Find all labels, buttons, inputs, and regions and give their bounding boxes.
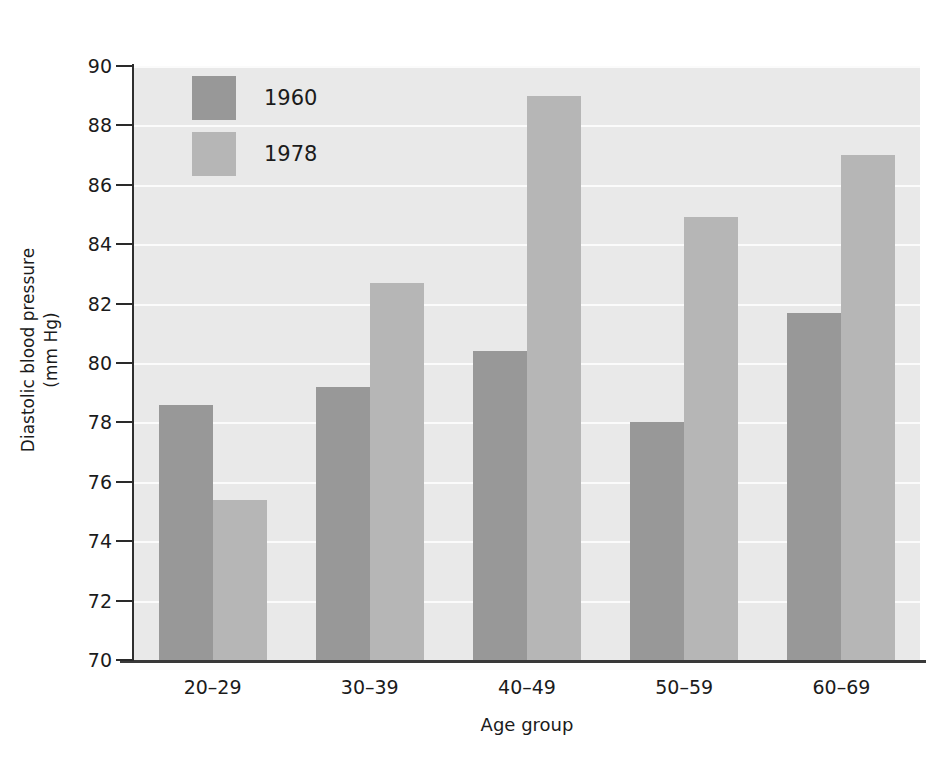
x-tick-label: 50–59 <box>614 676 754 698</box>
bar-1960-30–39 <box>316 387 370 660</box>
bar-1960-40–49 <box>473 351 527 660</box>
y-axis-spine <box>132 64 134 662</box>
x-tick-label: 20–29 <box>143 676 283 698</box>
y-tick-label: 72 <box>72 591 112 610</box>
x-tick-label: 30–39 <box>300 676 440 698</box>
y-tick-label: 90 <box>72 57 112 76</box>
bar-1978-50–59 <box>684 217 738 660</box>
y-axis-title-line1: Diastolic blood pressure <box>18 248 38 452</box>
y-tick-label: 88 <box>72 116 112 135</box>
bar-chart-figure: Diastolic blood pressure (mm Hg) 7072747… <box>0 0 949 758</box>
y-tick-label: 78 <box>72 413 112 432</box>
y-tick-label: 80 <box>72 354 112 373</box>
legend-swatch <box>192 76 236 120</box>
bar-1960-20–29 <box>159 405 213 660</box>
y-tick-label: 82 <box>72 294 112 313</box>
bar-1960-60–69 <box>787 313 841 660</box>
x-axis-spine <box>120 660 926 663</box>
bar-1978-60–69 <box>841 155 895 660</box>
legend-item: 1960 <box>192 76 422 120</box>
legend-label: 1960 <box>264 86 317 110</box>
y-tick-label: 76 <box>72 472 112 491</box>
y-axis-title-line2: (mm Hg) <box>40 248 63 452</box>
y-tick-label: 74 <box>72 532 112 551</box>
legend: 19601978 <box>192 76 422 188</box>
x-tick-label: 60–69 <box>771 676 911 698</box>
legend-swatch <box>192 132 236 176</box>
y-tick-label: 86 <box>72 175 112 194</box>
bar-1960-50–59 <box>630 422 684 660</box>
y-axis-title: Diastolic blood pressure (mm Hg) <box>10 0 70 700</box>
gridline <box>134 66 920 68</box>
legend-item: 1978 <box>192 132 422 176</box>
bar-1978-40–49 <box>527 96 581 660</box>
x-tick-label: 40–49 <box>457 676 597 698</box>
x-axis-title: Age group <box>134 714 920 735</box>
legend-label: 1978 <box>264 142 317 166</box>
bar-1978-20–29 <box>213 500 267 660</box>
y-tick-label: 84 <box>72 235 112 254</box>
y-tick-label: 70 <box>72 651 112 670</box>
bar-1978-30–39 <box>370 283 424 660</box>
